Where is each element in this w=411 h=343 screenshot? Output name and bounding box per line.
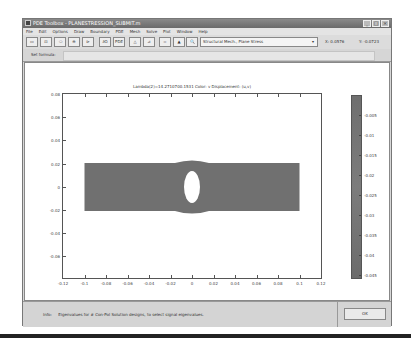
rectangle-center-icon[interactable]: ⊡ xyxy=(40,37,52,47)
y-tick: 0.04 xyxy=(51,138,60,143)
app-icon xyxy=(25,20,31,26)
application-mode-select[interactable]: Structural Mech., Plane Stress ▾ xyxy=(200,37,318,47)
y-tick: 0.08 xyxy=(51,92,60,97)
x-tick: -0.12 xyxy=(58,281,68,286)
y-tick: -0.02 xyxy=(50,208,60,213)
x-tick: 0.02 xyxy=(209,281,218,286)
x-tick: 0.12 xyxy=(317,281,326,286)
window-title: PDE Toolbox - PLANESTRESSION_SUBMIT.m xyxy=(33,20,140,26)
menu-plot[interactable]: Plot xyxy=(163,28,171,35)
application-mode-value: Structural Mech., Plane Stress xyxy=(203,39,263,44)
colorbar-tick-mark xyxy=(359,215,361,216)
plot-axes[interactable]: 0.08 0.06 0.04 0.02 0 -0.02 -0.04 -0.06 … xyxy=(62,93,322,279)
colorbar-tick-mark xyxy=(359,275,361,276)
y-tick: 0.02 xyxy=(51,162,60,167)
zoom-icon[interactable]: 🔍 xyxy=(186,37,198,47)
x-tick: -0.08 xyxy=(101,281,111,286)
set-formula-label: Set formula: xyxy=(31,52,56,57)
menu-window[interactable]: Window xyxy=(177,28,193,35)
status-message: Info: Eigenvalues for # Con-Pol Solution… xyxy=(43,310,335,320)
page-divider xyxy=(0,334,411,338)
deformed-plate-shape xyxy=(63,94,321,278)
menu-help[interactable]: Help xyxy=(198,28,207,35)
colorbar-tick: -0.04 xyxy=(364,253,374,258)
x-tick: 0.04 xyxy=(231,281,240,286)
colorbar-tick: -0.03 xyxy=(364,213,374,218)
menu-pde[interactable]: PDE xyxy=(116,28,124,35)
x-tick: -0.06 xyxy=(122,281,132,286)
menu-solve[interactable]: Solve xyxy=(146,28,157,35)
colorbar-tick: -0.01 xyxy=(364,133,374,138)
boundary-icon[interactable]: ∂Ω xyxy=(99,37,111,47)
ellipse-icon[interactable]: ⬭ xyxy=(54,37,66,47)
close-button[interactable]: × xyxy=(381,20,389,27)
maximize-button[interactable]: □ xyxy=(372,20,380,27)
x-tick: 0.1 xyxy=(296,281,302,286)
chevron-down-icon[interactable]: ▾ xyxy=(310,39,316,45)
toolbar: ▭ ⊡ ⬭ ⊖ ⊳ ∂Ω PDE △ ⊿ = ▲ 🔍 Structural Me… xyxy=(23,35,391,50)
status-label: Info: xyxy=(43,310,57,320)
colorbar-tick-mark xyxy=(359,255,361,256)
x-tick: -0.04 xyxy=(144,281,154,286)
status-text: Eigenvalues for # Con-Pol Solution desig… xyxy=(58,312,204,317)
mesh-icon[interactable]: △ xyxy=(129,37,141,47)
x-coordinate: X: 0.0576 xyxy=(325,37,344,47)
colorbar-tick-mark xyxy=(359,175,361,176)
minimize-button[interactable]: _ xyxy=(363,20,371,27)
menu-options[interactable]: Options xyxy=(52,28,67,35)
solve-icon[interactable]: = xyxy=(159,37,171,47)
rectangle-icon[interactable]: ▭ xyxy=(26,37,38,47)
x-tick: 0.06 xyxy=(252,281,261,286)
colorbar-tick: -0.045 xyxy=(364,273,377,278)
colorbar-tick: -0.035 xyxy=(364,233,377,238)
ok-button[interactable]: OK xyxy=(344,308,386,320)
colorbar-tick-mark xyxy=(359,155,361,156)
y-tick: 0.06 xyxy=(51,115,60,120)
menu-boundary[interactable]: Boundary xyxy=(90,28,109,35)
y-tick: 0 xyxy=(57,185,60,190)
colorbar-tick-mark xyxy=(359,235,361,236)
colorbar-tick-mark xyxy=(359,115,361,116)
colorbar-tick: -0.02 xyxy=(364,173,374,178)
menu-mesh[interactable]: Mesh xyxy=(130,28,141,35)
plot-area[interactable]: Lambda(2)=14.2710700.1531 Color: v Displ… xyxy=(24,62,390,301)
y-tick: -0.06 xyxy=(50,254,60,259)
plot-title: Lambda(2)=14.2710700.1531 Color: v Displ… xyxy=(62,84,322,89)
menu-file[interactable]: File xyxy=(26,28,33,35)
status-divider xyxy=(337,302,338,327)
x-tick: 0.08 xyxy=(274,281,283,286)
plot-icon[interactable]: ▲ xyxy=(173,37,185,47)
colorbar-tick: -0.005 xyxy=(364,113,377,118)
menu-bar: File Edit Options Draw Boundary PDE Mesh… xyxy=(23,28,391,35)
x-tick: 0 xyxy=(191,281,194,286)
y-tick: -0.04 xyxy=(50,231,60,236)
title-bar: PDE Toolbox - PLANESTRESSION_SUBMIT.m _ … xyxy=(23,19,391,28)
colorbar-tick-mark xyxy=(359,135,361,136)
ellipse-center-icon[interactable]: ⊖ xyxy=(68,37,80,47)
polygon-icon[interactable]: ⊳ xyxy=(82,37,94,47)
x-tick: -0.1 xyxy=(81,281,89,286)
colorbar-tick-mark xyxy=(359,195,361,196)
formula-row: Set formula: xyxy=(23,49,391,62)
x-tick: -0.02 xyxy=(165,281,175,286)
pde-toolbox-window: PDE Toolbox - PLANESTRESSION_SUBMIT.m _ … xyxy=(22,18,392,326)
colorbar: -0.005 -0.01 -0.015 -0.02 -0.025 -0.03 -… xyxy=(351,95,362,279)
colorbar-tick: -0.025 xyxy=(364,193,377,198)
y-coordinate: Y: -0.0723 xyxy=(359,37,379,47)
pde-icon[interactable]: PDE xyxy=(113,37,125,47)
refine-mesh-icon[interactable]: ⊿ xyxy=(143,37,155,47)
set-formula-input[interactable] xyxy=(63,51,375,61)
status-bar: Info: Eigenvalues for # Con-Pol Solution… xyxy=(23,301,391,327)
colorbar-tick: -0.015 xyxy=(364,153,377,158)
menu-edit[interactable]: Edit xyxy=(39,28,47,35)
menu-draw[interactable]: Draw xyxy=(74,28,84,35)
